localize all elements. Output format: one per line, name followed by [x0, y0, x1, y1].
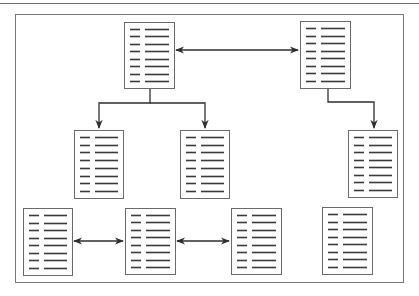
document-node-f	[24, 209, 73, 276]
document-icon	[349, 131, 398, 198]
document-icon	[323, 208, 373, 275]
diagram-canvas	[0, 0, 419, 296]
document-node-e	[349, 131, 398, 198]
document-icon	[125, 23, 175, 89]
document-node-i	[323, 208, 373, 275]
document-icon	[126, 209, 176, 275]
edge-a-c	[99, 88, 150, 128]
edge-a-d	[150, 103, 205, 128]
document-node-d	[181, 131, 230, 199]
edge-b-e	[328, 88, 374, 128]
document-node-h	[232, 209, 282, 275]
document-icon	[24, 209, 73, 276]
document-icon	[181, 131, 230, 199]
document-icon	[232, 209, 282, 275]
document-node-a	[125, 23, 175, 89]
document-node-c	[75, 131, 124, 199]
document-icon	[301, 22, 351, 89]
document-node-b	[301, 22, 351, 89]
document-nodes	[24, 22, 398, 276]
document-node-g	[126, 209, 176, 275]
document-icon	[75, 131, 124, 199]
